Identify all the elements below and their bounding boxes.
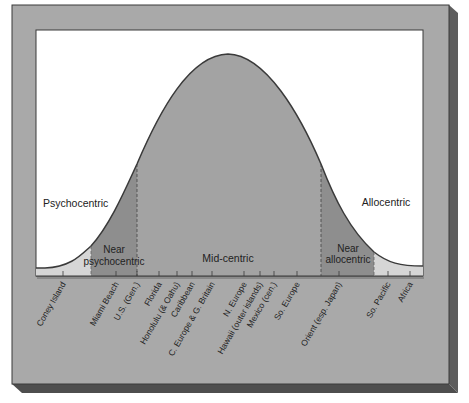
frame-right-side bbox=[449, 5, 458, 393]
plot-area: Psychocentric Near psychocentric Mid-cen… bbox=[36, 30, 424, 279]
label-psychocentric: Psychocentric bbox=[43, 197, 108, 209]
label-near-allocentric-1: Near bbox=[337, 243, 359, 254]
label-near-psychocentric-1: Near bbox=[103, 244, 125, 255]
diagram-container: Psychocentric Near psychocentric Mid-cen… bbox=[0, 0, 469, 403]
label-mid-centric: Mid-centric bbox=[202, 252, 253, 264]
label-allocentric: Allocentric bbox=[362, 196, 410, 208]
frame-bottom-side bbox=[12, 384, 458, 393]
label-near-psychocentric-2: psychocentric bbox=[83, 256, 144, 267]
label-near-allocentric-2: allocentric bbox=[325, 254, 370, 265]
